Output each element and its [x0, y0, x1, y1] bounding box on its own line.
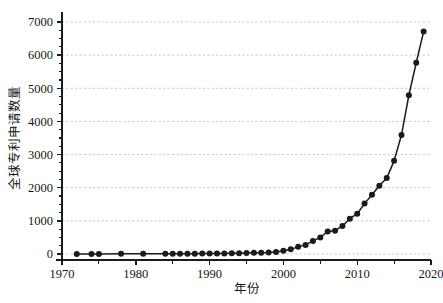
data-point-2006 — [325, 228, 331, 234]
data-point-1989 — [199, 251, 205, 257]
series-markers-patent-applications — [74, 29, 427, 257]
chart-figure: 01000200030004000500060007000 1970198019… — [0, 0, 443, 303]
y-tick-label-4000: 4000 — [28, 115, 53, 129]
y-axis-tick-labels-group: 01000200030004000500060007000 — [28, 15, 53, 261]
data-point-1974 — [89, 251, 95, 257]
y-tick-label-0: 0 — [47, 247, 53, 261]
y-tick-label-5000: 5000 — [28, 82, 53, 96]
data-point-2014 — [384, 175, 390, 181]
x-tick-label-1980: 1980 — [123, 267, 148, 281]
data-point-1988 — [192, 251, 198, 257]
data-point-2000 — [280, 248, 286, 254]
data-point-1978 — [118, 251, 124, 257]
data-point-1972 — [74, 251, 80, 257]
data-point-1997 — [258, 250, 264, 256]
data-point-1995 — [244, 250, 250, 256]
axes-group — [56, 12, 431, 260]
x-tick-label-2010: 2010 — [345, 267, 370, 281]
data-point-2008 — [339, 223, 345, 229]
data-point-2016 — [398, 132, 404, 138]
data-point-2012 — [369, 192, 375, 198]
data-point-1975 — [96, 251, 102, 257]
x-axis-tick-labels-group: 197019801990200020102020 — [50, 267, 443, 281]
data-point-1987 — [184, 251, 190, 257]
data-point-2019 — [421, 29, 427, 35]
data-point-2013 — [376, 183, 382, 189]
data-series-group — [74, 29, 427, 257]
data-point-1990 — [207, 251, 213, 257]
x-axis-title: 年份 — [234, 282, 260, 296]
data-point-1999 — [273, 249, 279, 255]
data-point-2005 — [317, 234, 323, 240]
x-tick-label-2020: 2020 — [419, 267, 443, 281]
x-tick-label-2000: 2000 — [271, 267, 296, 281]
x-tick-label-1970: 1970 — [50, 267, 75, 281]
data-point-1998 — [266, 249, 272, 255]
data-point-1984 — [162, 251, 168, 257]
data-point-1986 — [177, 251, 183, 257]
data-point-1991 — [214, 250, 220, 256]
data-point-1992 — [221, 250, 227, 256]
x-tick-label-1990: 1990 — [197, 267, 222, 281]
data-point-1993 — [229, 250, 235, 256]
data-point-2011 — [362, 201, 368, 207]
data-point-1981 — [140, 251, 146, 257]
data-point-1996 — [251, 250, 257, 256]
y-tick-label-6000: 6000 — [28, 48, 53, 62]
data-point-2001 — [288, 246, 294, 252]
y-axis-title: 全球专利申请数量 — [7, 86, 22, 190]
y-tick-label-1000: 1000 — [28, 214, 53, 228]
y-tick-label-7000: 7000 — [28, 15, 53, 29]
gridlines-group — [62, 22, 431, 254]
data-point-2007 — [332, 228, 338, 234]
y-tick-label-3000: 3000 — [28, 148, 53, 162]
data-point-2018 — [413, 60, 419, 66]
data-point-2003 — [303, 242, 309, 248]
data-point-1985 — [170, 251, 176, 257]
data-point-2004 — [310, 238, 316, 244]
patent-applications-line-chart: 01000200030004000500060007000 1970198019… — [0, 0, 443, 303]
data-point-2017 — [406, 92, 412, 98]
data-point-2010 — [354, 211, 360, 217]
y-tick-label-2000: 2000 — [28, 181, 53, 195]
data-point-2002 — [295, 244, 301, 250]
data-point-1994 — [236, 250, 242, 256]
data-point-2009 — [347, 216, 353, 222]
data-point-2015 — [391, 158, 397, 164]
